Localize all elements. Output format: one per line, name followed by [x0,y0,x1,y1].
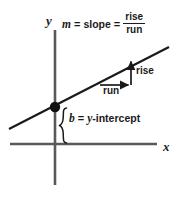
run-label: run [103,86,119,96]
intercept-equals: = [78,113,84,124]
y-axis-label: y [46,14,52,27]
intercept-word: -intercept [92,113,140,124]
formula-m-symbol: m [62,18,71,30]
formula-slope-word: slope [83,18,110,30]
fraction-numerator: rise [124,12,144,23]
rise-label: rise [136,66,154,76]
brace-icon [59,108,66,143]
y-intercept-point [50,102,60,112]
slope-formula: m = slope = rise run [62,12,145,35]
rise-over-run-fraction: rise run [123,12,145,35]
intercept-b-symbol: b [69,113,75,125]
formula-equals-1: = [74,18,80,30]
fraction-denominator: run [125,24,143,35]
y-intercept-annotation: b = y -intercept [69,113,140,125]
formula-equals-2: = [114,18,120,30]
x-axis-label: x [163,140,170,153]
slope-intercept-diagram: y x m = slope = rise run rise run b = y … [0,0,177,198]
